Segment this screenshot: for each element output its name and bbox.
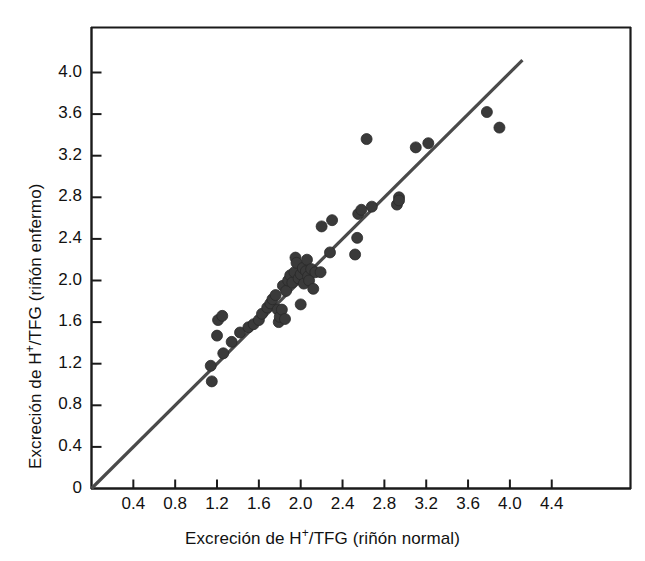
x-axis-title: Excreción de H+/TFG (riñón normal) xyxy=(0,529,645,549)
scatter-point xyxy=(494,122,505,133)
x-tick-label: 4.0 xyxy=(488,494,532,514)
scatter-point xyxy=(206,376,217,387)
x-tick-label: 4.4 xyxy=(530,494,574,514)
scatter-point xyxy=(226,336,237,347)
y-tick-label: 4.0 xyxy=(36,62,82,82)
scatter-point xyxy=(316,221,327,232)
scatter-point xyxy=(324,247,335,258)
scatter-point xyxy=(295,299,306,310)
scatter-point xyxy=(327,215,338,226)
y-axis-title-post: /TFG (riñón enfermo) xyxy=(26,184,45,346)
scatter-point xyxy=(481,107,492,118)
y-axis-title-superscript: + xyxy=(23,345,37,352)
x-tick-label: 2.0 xyxy=(279,494,323,514)
y-axis-ticks xyxy=(92,73,102,447)
scatter-point xyxy=(280,313,291,324)
y-tick-label: 0 xyxy=(36,478,82,498)
scatter-point xyxy=(410,142,421,153)
x-axis-title-post: /TFG (riñón normal) xyxy=(309,529,460,548)
y-axis-title-pre: Excreción de H xyxy=(26,352,45,469)
x-tick-label: 1.6 xyxy=(237,494,281,514)
scatter-point xyxy=(308,283,319,294)
x-tick-label: 3.6 xyxy=(446,494,490,514)
x-tick-label: 1.2 xyxy=(195,494,239,514)
y-tick-label: 3.2 xyxy=(36,145,82,165)
y-tick-label: 3.6 xyxy=(36,103,82,123)
x-tick-label: 3.2 xyxy=(404,494,448,514)
scatter-point xyxy=(218,348,229,359)
scatter-point xyxy=(315,267,326,278)
scatter-plot-figure: 0.40.81.21.62.02.42.83.23.64.04.4 00.40.… xyxy=(0,0,645,561)
plot-axes xyxy=(91,27,631,489)
y-axis-title: Excreción de H+/TFG (riñón enfermo) xyxy=(26,184,46,469)
x-axis-title-pre: Excreción de H xyxy=(185,529,302,548)
plot-canvas xyxy=(0,0,645,561)
scatter-point xyxy=(394,195,405,206)
scatter-point xyxy=(352,232,363,243)
scatter-point xyxy=(205,360,216,371)
x-axis-ticks xyxy=(133,480,551,489)
x-tick-label: 2.4 xyxy=(321,494,365,514)
scatter-point xyxy=(356,204,367,215)
scatter-point xyxy=(217,310,228,321)
y-axis-title-container: Excreción de H+/TFG (riñón enfermo) xyxy=(0,0,36,500)
x-tick-label: 2.8 xyxy=(362,494,406,514)
scatter-point xyxy=(212,330,223,341)
x-axis-title-superscript: + xyxy=(302,526,309,540)
x-tick-label: 0.8 xyxy=(153,494,197,514)
scatter-point xyxy=(270,290,281,301)
scatter-point xyxy=(350,249,361,260)
scatter-point xyxy=(361,134,372,145)
scatter-point xyxy=(423,138,434,149)
scatter-point xyxy=(366,201,377,212)
x-tick-label: 0.4 xyxy=(111,494,155,514)
data-point-markers xyxy=(205,107,505,387)
